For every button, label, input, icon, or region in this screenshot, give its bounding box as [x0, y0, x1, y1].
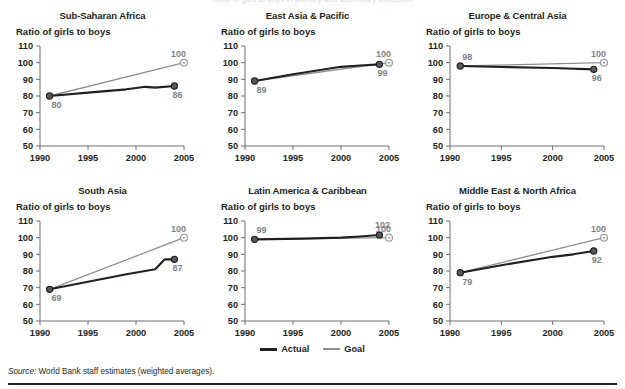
legend-swatch-actual-icon [260, 348, 277, 351]
x-tick-label: 1990 [235, 328, 255, 338]
y-tick-label: 50 [433, 316, 443, 326]
y-tick-label: 60 [228, 125, 238, 135]
panel-title: South Asia [0, 185, 205, 196]
y-tick-label: 110 [223, 216, 238, 226]
x-tick-label: 2000 [126, 328, 146, 338]
panel-title: Middle East & North Africa [410, 185, 625, 196]
x-tick-label: 2005 [174, 153, 194, 163]
goal-end-marker-dot [388, 62, 390, 64]
actual-start-value-label: 69 [52, 293, 62, 303]
x-tick-label: 1995 [78, 153, 98, 163]
actual-end-marker [591, 66, 597, 72]
actual-start-value-label: 79 [462, 277, 472, 287]
actual-start-marker [47, 93, 53, 99]
x-tick-label: 2005 [379, 153, 399, 163]
goal-end-marker-dot [603, 237, 605, 239]
x-tick-label: 2000 [126, 153, 146, 163]
actual-line [460, 66, 593, 69]
y-tick-label: 70 [23, 283, 33, 293]
y-tick-label: 70 [23, 108, 33, 118]
y-tick-label: 50 [23, 141, 33, 151]
actual-start-marker [252, 78, 258, 84]
y-tick-label: 50 [433, 141, 443, 151]
y-tick-label: 100 [428, 58, 443, 68]
legend-item-goal: Goal [323, 344, 364, 354]
actual-end-value-label: 92 [592, 255, 602, 265]
y-tick-label: 70 [228, 283, 238, 293]
y-tick-label: 90 [228, 75, 238, 85]
legend-item-actual: Actual [260, 344, 309, 354]
x-tick-label: 2000 [331, 153, 351, 163]
plot-area: 506070809010011019901995200020051008999 [205, 38, 410, 174]
legend-label-actual: Actual [281, 344, 309, 354]
chart-panel: Europe & Central AsiaRatio of girls to b… [410, 4, 625, 179]
x-tick-label: 1995 [491, 328, 511, 338]
source-text: World Bank staff estimates (weighted ave… [36, 367, 214, 376]
goal-end-marker-dot [183, 237, 185, 239]
x-tick-label: 2000 [331, 328, 351, 338]
x-tick-label: 1995 [491, 153, 511, 163]
plot-area: 506070809010011019901995200020051009896 [410, 38, 625, 174]
y-tick-label: 60 [23, 300, 33, 310]
actual-end-value-label: 86 [172, 90, 182, 100]
y-tick-label: 100 [223, 58, 238, 68]
y-axis-label: Ratio of girls to boys [16, 26, 110, 37]
y-tick-label: 80 [228, 266, 238, 276]
y-tick-label: 60 [23, 125, 33, 135]
y-tick-label: 90 [23, 250, 33, 260]
goal-line [50, 238, 184, 290]
plot-svg: 506070809010011019901995200020051009896 [410, 38, 625, 174]
x-tick-label: 1990 [235, 153, 255, 163]
chart-panel: Sub-Saharan AfricaRatio of girls to boys… [0, 4, 205, 179]
y-axis-label: Ratio of girls to boys [221, 26, 315, 37]
y-tick-label: 100 [18, 233, 33, 243]
y-tick-label: 70 [433, 283, 443, 293]
y-tick-label: 110 [428, 216, 443, 226]
actual-line [50, 259, 175, 289]
plot-area: 506070809010011019901995200020051007992 [410, 213, 625, 349]
x-tick-label: 2005 [379, 328, 399, 338]
x-tick-label: 1995 [78, 328, 98, 338]
x-tick-label: 2005 [594, 153, 614, 163]
y-axis-label: Ratio of girls to boys [16, 201, 110, 212]
y-tick-label: 110 [223, 41, 238, 51]
goal-value-label: 100 [591, 224, 606, 234]
x-tick-label: 2000 [542, 328, 562, 338]
y-tick-label: 50 [228, 141, 238, 151]
actual-start-value-label: 80 [52, 100, 62, 110]
goal-value-label: 100 [171, 49, 186, 59]
goal-value-label: 100 [376, 49, 391, 59]
x-tick-label: 1990 [30, 328, 50, 338]
actual-start-value-label: 99 [257, 225, 267, 235]
y-tick-label: 90 [433, 75, 443, 85]
plot-svg: 506070809010011019901995200020051006987 [0, 213, 205, 349]
y-axis-label: Ratio of girls to boys [426, 201, 520, 212]
plot-area: 5060708090100110199019952000200510099102 [205, 213, 410, 349]
actual-end-marker [376, 61, 382, 67]
x-tick-label: 1990 [30, 153, 50, 163]
actual-start-value-label: 98 [462, 52, 472, 62]
plot-svg: 506070809010011019901995200020051008086 [0, 38, 205, 174]
plot-area: 506070809010011019901995200020051006987 [0, 213, 205, 349]
x-tick-label: 2005 [594, 328, 614, 338]
legend-swatch-goal-icon [323, 348, 340, 350]
figure-root: Ratio of girls to boys in primary and se… [0, 0, 625, 389]
y-tick-label: 110 [18, 41, 33, 51]
panel-title: Europe & Central Asia [410, 10, 625, 21]
chart-panel: Latin America & CaribbeanRatio of girls … [205, 179, 410, 354]
x-tick-label: 1995 [283, 328, 303, 338]
actual-start-marker [252, 236, 258, 242]
actual-end-value-label: 99 [377, 68, 387, 78]
y-tick-label: 50 [228, 316, 238, 326]
y-axis-label: Ratio of girls to boys [221, 201, 315, 212]
chart-panel: South AsiaRatio of girls to boys50607080… [0, 179, 205, 354]
actual-start-marker [457, 270, 463, 276]
y-tick-label: 60 [433, 125, 443, 135]
y-tick-label: 90 [228, 250, 238, 260]
y-tick-label: 70 [228, 108, 238, 118]
y-tick-label: 90 [23, 75, 33, 85]
actual-end-marker [171, 256, 177, 262]
x-tick-label: 2000 [542, 153, 562, 163]
goal-end-marker-dot [183, 62, 185, 64]
y-tick-label: 110 [428, 41, 443, 51]
